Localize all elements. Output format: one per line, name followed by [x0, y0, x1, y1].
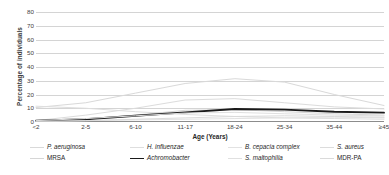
legend-line-swatch — [228, 158, 242, 159]
legend-label: H. influenzae — [147, 144, 184, 150]
legend-item[interactable]: H. influenzae — [130, 143, 184, 152]
x-tick-label: 6-10 — [129, 124, 141, 130]
legend-line-swatch — [320, 147, 334, 148]
series-lines — [36, 12, 384, 122]
series-line — [36, 79, 384, 108]
x-tick-label: 25-34 — [277, 124, 293, 130]
legend-line-swatch — [30, 147, 44, 148]
y-tick-label: 80 — [20, 9, 34, 15]
legend-item[interactable]: S. aureus — [320, 143, 364, 152]
y-tick-label: 20 — [20, 92, 34, 98]
y-tick-label: 10 — [20, 105, 34, 111]
y-tick-label: 50 — [20, 50, 34, 56]
legend-line-swatch — [320, 158, 334, 159]
legend-label: B. cepacia complex — [245, 144, 300, 150]
x-tick-label: <2 — [32, 124, 39, 130]
legend-label: S. maltophilia — [245, 155, 283, 161]
legend-line-swatch — [30, 158, 44, 159]
legend-label: S. aureus — [337, 144, 364, 150]
legend-label: P. aeruginosa — [47, 144, 85, 150]
legend-line-swatch — [228, 147, 242, 148]
x-axis-title: Age (Years) — [36, 133, 384, 140]
chart-legend: P. aeruginosaH. influenzaeB. cepacia com… — [30, 143, 382, 169]
legend-line-swatch — [130, 158, 144, 159]
line-chart: Percentage of individuals 01020304050607… — [0, 0, 389, 175]
legend-item[interactable]: Achromobacter — [130, 154, 190, 163]
legend-label: Achromobacter — [147, 155, 190, 161]
x-tick-label: 35-44 — [326, 124, 342, 130]
legend-item[interactable]: S. maltophilia — [228, 154, 283, 163]
y-axis-tick-labels: 01020304050607080 — [16, 12, 34, 122]
y-tick-label: 60 — [20, 37, 34, 43]
x-tick-label: 18-24 — [227, 124, 243, 130]
legend-item[interactable]: MDR-PA — [320, 154, 361, 163]
x-tick-label: ≥45 — [379, 124, 389, 130]
y-tick-label: 40 — [20, 64, 34, 70]
legend-line-swatch — [130, 147, 144, 148]
legend-label: MDR-PA — [337, 155, 361, 161]
y-tick-label: 70 — [20, 23, 34, 29]
legend-item[interactable]: MRSA — [30, 154, 65, 163]
x-tick-label: 11-17 — [177, 124, 192, 130]
legend-label: MRSA — [47, 155, 65, 161]
x-tick-label: 2-5 — [81, 124, 90, 130]
plot-area — [36, 12, 384, 122]
y-tick-label: 30 — [20, 78, 34, 84]
legend-item[interactable]: P. aeruginosa — [30, 143, 85, 152]
legend-item[interactable]: B. cepacia complex — [228, 143, 300, 152]
